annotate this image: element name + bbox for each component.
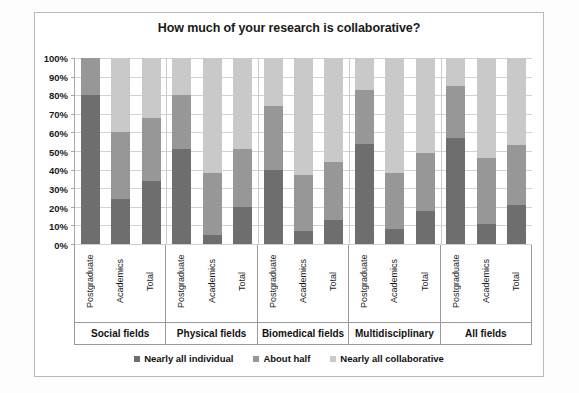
stacked-bar[interactable] xyxy=(111,58,130,244)
category-label: Academics xyxy=(207,245,217,320)
bar-segment xyxy=(294,231,313,244)
stacked-bar[interactable] xyxy=(324,58,343,244)
y-axis-tick-label: 20% xyxy=(49,202,68,213)
group-label: Physical fields xyxy=(166,323,257,344)
bars-layer xyxy=(75,58,532,244)
legend-label: Nearly all collaborative xyxy=(340,353,444,364)
bar-segment xyxy=(294,175,313,231)
category-label: Postgraduate xyxy=(85,245,95,320)
bar-segment xyxy=(142,181,161,244)
bar-group xyxy=(258,58,349,244)
legend-swatch-icon xyxy=(330,356,336,362)
legend-item[interactable]: Nearly all individual xyxy=(134,353,233,364)
stacked-bar[interactable] xyxy=(477,58,496,244)
bar-segment xyxy=(446,86,465,138)
bar-segment xyxy=(233,149,252,207)
y-axis-tick-label: 70% xyxy=(49,109,68,120)
stacked-bar[interactable] xyxy=(446,58,465,244)
chart-title: How much of your research is collaborati… xyxy=(35,21,543,35)
stacked-bar[interactable] xyxy=(81,58,100,244)
legend-swatch-icon xyxy=(134,356,140,362)
bar-segment xyxy=(507,145,526,205)
category-label: Total xyxy=(145,245,155,320)
bar-segment xyxy=(324,220,343,244)
stacked-bar[interactable] xyxy=(355,58,374,244)
bar-segment xyxy=(324,162,343,220)
bar-segment xyxy=(233,207,252,244)
category-group: PostgraduateAcademicsTotal xyxy=(349,245,440,322)
stacked-bar[interactable] xyxy=(264,58,283,244)
bar-group xyxy=(349,58,440,244)
stacked-bar[interactable] xyxy=(233,58,252,244)
category-label: Postgraduate xyxy=(268,245,278,320)
bar-group xyxy=(166,58,257,244)
y-axis-tick-label: 10% xyxy=(49,221,68,232)
bar-group xyxy=(75,58,166,244)
bar-segment xyxy=(385,173,404,229)
bar-segment xyxy=(477,224,496,244)
category-group: PostgraduateAcademicsTotal xyxy=(258,245,349,322)
bar-segment xyxy=(264,106,283,169)
legend-label: Nearly all individual xyxy=(144,353,233,364)
bar-segment xyxy=(233,58,252,149)
bar-segment xyxy=(264,58,283,106)
group-label: All fields xyxy=(441,323,531,344)
bar-segment xyxy=(507,205,526,244)
bar-segment xyxy=(355,58,374,90)
screenshot-page: How much of your research is collaborati… xyxy=(0,0,579,393)
group-axis: Social fieldsPhysical fieldsBiomedical f… xyxy=(74,323,532,345)
bar-segment xyxy=(477,158,496,223)
category-group: PostgraduateAcademicsTotal xyxy=(441,245,531,322)
group-label: Multidisciplinary xyxy=(349,323,440,344)
stacked-bar[interactable] xyxy=(294,58,313,244)
stacked-bar[interactable] xyxy=(385,58,404,244)
bar-segment xyxy=(172,149,191,244)
stacked-bar[interactable] xyxy=(142,58,161,244)
category-label: Postgraduate xyxy=(176,245,186,320)
bar-segment xyxy=(446,138,465,244)
chart-frame: How much of your research is collaborati… xyxy=(34,12,544,377)
bar-segment xyxy=(477,58,496,158)
bar-segment xyxy=(446,58,465,86)
group-label: Social fields xyxy=(75,323,166,344)
legend-item[interactable]: About half xyxy=(253,353,310,364)
stacked-bar[interactable] xyxy=(203,58,222,244)
category-label: Total xyxy=(237,245,247,320)
y-axis-tick-label: 30% xyxy=(49,183,68,194)
bar-segment xyxy=(81,95,100,244)
category-axis: PostgraduateAcademicsTotalPostgraduateAc… xyxy=(74,245,532,323)
bar-segment xyxy=(385,58,404,173)
bar-segment xyxy=(172,95,191,149)
y-axis-tick-label: 100% xyxy=(44,53,68,64)
bar-segment xyxy=(203,173,222,234)
legend-item[interactable]: Nearly all collaborative xyxy=(330,353,444,364)
bar-segment xyxy=(81,58,100,95)
bar-group xyxy=(441,58,532,244)
bar-segment xyxy=(355,144,374,244)
bar-segment xyxy=(142,58,161,118)
category-label: Academics xyxy=(481,245,491,320)
y-axis-tick-label: 50% xyxy=(49,146,68,157)
bar-segment xyxy=(111,132,130,199)
bar-segment xyxy=(111,58,130,132)
category-label: Total xyxy=(511,245,521,320)
bar-segment xyxy=(355,90,374,144)
bar-segment xyxy=(507,58,526,145)
bar-segment xyxy=(324,58,343,162)
category-label: Total xyxy=(328,245,338,320)
category-label: Academics xyxy=(298,245,308,320)
bar-segment xyxy=(385,229,404,244)
legend-swatch-icon xyxy=(253,356,259,362)
category-group: PostgraduateAcademicsTotal xyxy=(75,245,166,322)
category-label: Postgraduate xyxy=(359,245,369,320)
stacked-bar[interactable] xyxy=(507,58,526,244)
y-axis-tick-label: 60% xyxy=(49,127,68,138)
stacked-bar[interactable] xyxy=(172,58,191,244)
bar-segment xyxy=(203,58,222,173)
category-group: PostgraduateAcademicsTotal xyxy=(166,245,257,322)
plot-wrapper: 0%10%20%30%40%50%60%70%80%90%100% xyxy=(74,58,532,245)
stacked-bar[interactable] xyxy=(416,58,435,244)
category-label: Total xyxy=(420,245,430,320)
bar-segment xyxy=(111,199,130,244)
y-axis-tick-label: 80% xyxy=(49,90,68,101)
